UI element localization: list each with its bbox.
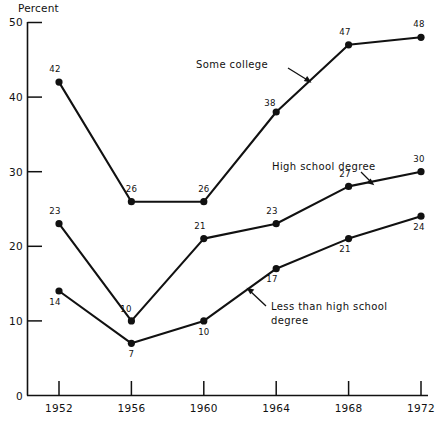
y-tick-label-40: 40: [9, 91, 23, 103]
y-tick-label-0: 0: [16, 390, 23, 402]
data-point: [273, 108, 280, 115]
y-tick-label-30: 30: [9, 166, 23, 178]
data-point: [417, 213, 424, 220]
point-label-high-school-1968: 27: [339, 169, 350, 179]
point-label-some-college-1952: 42: [49, 64, 60, 74]
point-label-high-school-1956: 10: [120, 304, 131, 314]
point-label-some-college-1972: 48: [413, 19, 424, 29]
data-point: [417, 168, 424, 175]
y-axis-title: Percent: [18, 2, 59, 14]
x-tick-label-1956: 1956: [117, 402, 145, 414]
line-chart: Percent 50 40 30 20 10 0 1952 1956 1960 …: [0, 0, 438, 425]
series-less-than-high-school-degree-line: [59, 216, 421, 343]
data-point: [128, 198, 135, 205]
point-label-high-school-1972: 30: [413, 154, 424, 164]
point-label-less-than-hs-1956: 7: [129, 349, 135, 359]
point-label-high-school-1960: 21: [194, 221, 205, 231]
point-label-some-college-1968: 47: [339, 27, 350, 37]
chart-container: Percent 50 40 30 20 10 0 1952 1956 1960 …: [0, 0, 438, 425]
data-point: [273, 220, 280, 227]
x-tick-label-1968: 1968: [335, 402, 363, 414]
data-point: [128, 340, 135, 347]
point-label-some-college-1956: 26: [126, 184, 137, 194]
x-tick-label-1972: 1972: [407, 402, 435, 414]
point-label-less-than-hs-1952: 14: [49, 297, 60, 307]
data-point: [55, 287, 62, 294]
y-tick-label-20: 20: [9, 240, 23, 252]
data-point: [417, 34, 424, 41]
y-tick-label-10: 10: [9, 315, 23, 327]
data-point: [200, 198, 207, 205]
x-tick-label-1964: 1964: [262, 402, 290, 414]
x-tick-label-1952: 1952: [45, 402, 73, 414]
data-point: [345, 183, 352, 190]
axis-group: [27, 22, 428, 396]
data-point: [200, 235, 207, 242]
x-tick-label-1960: 1960: [190, 402, 218, 414]
point-label-less-than-hs-1968: 21: [339, 244, 350, 254]
point-label-some-college-1964: 38: [264, 98, 275, 108]
data-point: [55, 220, 62, 227]
point-label-high-school-1952: 23: [49, 206, 60, 216]
point-label-less-than-hs-1964: 17: [266, 274, 277, 284]
data-point: [345, 235, 352, 242]
point-label-less-than-hs-1972: 24: [413, 222, 424, 232]
point-label-some-college-1960: 26: [198, 184, 209, 194]
data-point: [55, 79, 62, 86]
y-tick-label-50: 50: [9, 16, 23, 28]
data-point: [200, 317, 207, 324]
annotation-some-college: Some college: [196, 59, 268, 70]
data-point: [128, 317, 135, 324]
series-less-than-high-school-degree: [55, 213, 424, 347]
data-point: [345, 41, 352, 48]
series-high-school-degree-line: [59, 172, 421, 321]
annotation-less-than-hs-line1: Less than high school: [271, 301, 388, 312]
point-label-less-than-hs-1960: 10: [198, 327, 209, 337]
point-label-high-school-1964: 23: [266, 206, 277, 216]
data-point: [273, 265, 280, 272]
annotation-high-school-degree: High school degree: [272, 161, 376, 172]
annotation-less-than-hs-line2: degree: [271, 315, 308, 326]
